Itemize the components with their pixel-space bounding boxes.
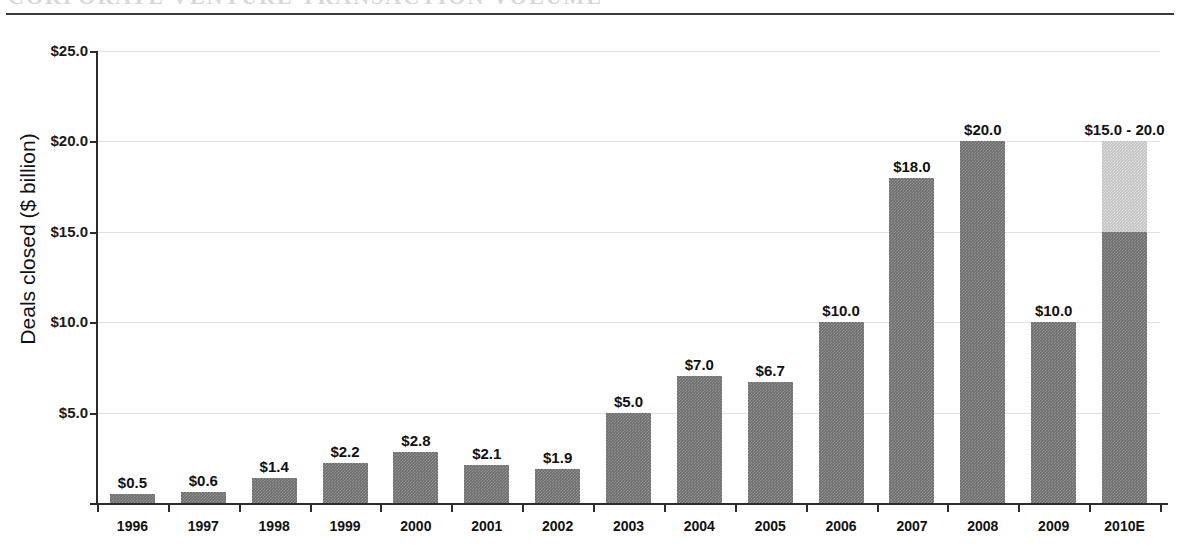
bar-segment-base [677, 376, 722, 503]
bar-value-label: $2.2 [330, 443, 359, 460]
bar-value-label: $1.9 [543, 449, 572, 466]
bar-value-label: $2.1 [472, 445, 501, 462]
x-axis-label-2005: 2005 [735, 518, 806, 534]
y-tick-label: $25.0 [50, 42, 88, 59]
bar-2005[interactable]: $6.7 [748, 382, 793, 503]
x-tick-mark [451, 503, 453, 512]
x-tick-mark [664, 503, 666, 512]
bar-value-label: $0.6 [189, 472, 218, 489]
bar-value-label: $6.7 [756, 362, 785, 379]
bar-2006[interactable]: $10.0 [819, 322, 864, 503]
bar-1996[interactable]: $0.5 [110, 494, 155, 503]
y-axis-title: Deals closed ($ billion) [16, 49, 40, 429]
bar-2007[interactable]: $18.0 [889, 178, 934, 503]
bar-value-label: $18.0 [893, 158, 931, 175]
bar-segment-base [535, 469, 580, 503]
x-axis-label-2004: 2004 [664, 518, 735, 534]
title-divider [6, 13, 1174, 15]
bar-1997[interactable]: $0.6 [181, 492, 226, 503]
x-axis-label-2008: 2008 [947, 518, 1018, 534]
bar-value-label: $10.0 [1035, 302, 1073, 319]
x-axis-label-2007: 2007 [877, 518, 948, 534]
bar-value-label: $0.5 [118, 474, 147, 491]
bar-segment-base [252, 478, 297, 503]
x-axis-label-2002: 2002 [522, 518, 593, 534]
bar-segment-base [889, 178, 934, 503]
y-tick-label: $10.0 [50, 313, 88, 330]
bar-segment-base [819, 322, 864, 503]
x-tick-mark [1089, 503, 1091, 512]
x-tick-mark [1160, 503, 1162, 512]
bar-segment-base [181, 492, 226, 503]
bar-value-label: $15.0 - 20.0 [1085, 121, 1165, 138]
bar-1998[interactable]: $1.4 [252, 478, 297, 503]
y-tick-label: $5.0 [59, 404, 88, 421]
x-tick-mark [1018, 503, 1020, 512]
x-tick-mark [239, 503, 241, 512]
bar-2001[interactable]: $2.1 [464, 465, 509, 503]
x-axis-label-1998: 1998 [239, 518, 310, 534]
bar-segment-range [1102, 141, 1147, 231]
x-axis-label-2010e: 2010E [1089, 518, 1160, 534]
x-tick-mark [593, 503, 595, 512]
bar-segment-base [110, 494, 155, 503]
bar-segment-base [1031, 322, 1076, 503]
plot-area: $0.5$0.6$1.4$2.2$2.8$2.1$1.9$5.0$7.0$6.7… [97, 51, 1160, 503]
bar-segment-base [464, 465, 509, 503]
x-tick-mark [380, 503, 382, 512]
x-tick-mark [735, 503, 737, 512]
x-axis-label-1996: 1996 [97, 518, 168, 534]
x-axis-label-1997: 1997 [168, 518, 239, 534]
bar-segment-base [393, 452, 438, 503]
x-tick-mark [947, 503, 949, 512]
clipped-title-strip: CORPORATE VENTURE TRANSACTION VOLUME [0, 0, 1180, 9]
x-axis-label-2003: 2003 [593, 518, 664, 534]
bar-value-label: $20.0 [964, 121, 1002, 138]
x-tick-mark [522, 503, 524, 512]
bar-value-label: $10.0 [822, 302, 860, 319]
x-axis-label-2001: 2001 [451, 518, 522, 534]
x-tick-mark [97, 503, 99, 512]
x-tick-mark [310, 503, 312, 512]
x-axis-label-2000: 2000 [380, 518, 451, 534]
bar-segment-base [960, 141, 1005, 503]
x-axis-label-1999: 1999 [310, 518, 381, 534]
x-axis-label-2006: 2006 [806, 518, 877, 534]
bar-segment-base [748, 382, 793, 503]
x-tick-mark [168, 503, 170, 512]
bar-2004[interactable]: $7.0 [677, 376, 722, 503]
y-tick-label: $20.0 [50, 132, 88, 149]
bar-chart: Deals closed ($ billion) $25.0$20.0$15.0… [0, 22, 1180, 560]
bar-2010e[interactable]: $15.0 - 20.0 [1102, 141, 1147, 503]
bar-2003[interactable]: $5.0 [606, 413, 651, 503]
bar-value-label: $7.0 [685, 356, 714, 373]
bar-value-label: $1.4 [260, 458, 289, 475]
bar-2002[interactable]: $1.9 [535, 469, 580, 503]
x-tick-mark [806, 503, 808, 512]
y-tick-label: $15.0 [50, 223, 88, 240]
bar-value-label: $2.8 [401, 432, 430, 449]
bar-1999[interactable]: $2.2 [323, 463, 368, 503]
page-title: CORPORATE VENTURE TRANSACTION VOLUME [8, 0, 603, 9]
bar-segment-base [1102, 232, 1147, 503]
x-axis-label-2009: 2009 [1018, 518, 1089, 534]
x-tick-mark [877, 503, 879, 512]
bar-segment-base [606, 413, 651, 503]
bar-segment-base [323, 463, 368, 503]
x-axis-line [90, 503, 1168, 505]
bar-2009[interactable]: $10.0 [1031, 322, 1076, 503]
bar-2000[interactable]: $2.8 [393, 452, 438, 503]
bar-value-label: $5.0 [614, 393, 643, 410]
bar-2008[interactable]: $20.0 [960, 141, 1005, 503]
